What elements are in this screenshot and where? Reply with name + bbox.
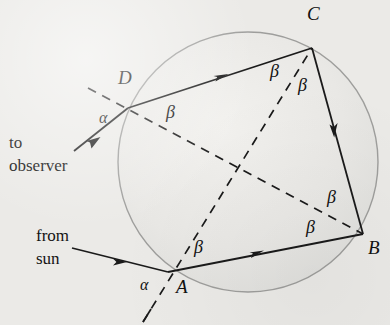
caption-from-sun-line-2: sun — [36, 250, 69, 267]
angle-label-beta-at-b-lower: β — [306, 218, 315, 236]
caption-to-observer-line-2: observer — [9, 157, 68, 174]
vertex-label-b: B — [368, 238, 380, 257]
angle-label-alpha-at-a: α — [140, 277, 148, 293]
caption-to-observer-line-1: to — [9, 134, 68, 151]
normal-tick-below-a — [143, 309, 151, 322]
angle-label-beta-at-b-upper: β — [327, 188, 336, 206]
angle-label-beta-at-c-right: β — [298, 76, 307, 94]
angle-label-beta-at-c-left: β — [270, 62, 279, 80]
figure-canvas: A B C D α α β β β β β β to observer from… — [0, 0, 390, 325]
caption-from-sun: from sun — [36, 227, 69, 267]
vertex-label-a: A — [176, 277, 188, 296]
angle-label-alpha-at-d: α — [99, 110, 107, 126]
caption-to-observer: to observer — [9, 134, 68, 174]
vertex-label-d: D — [118, 68, 132, 87]
raindrop-circle — [118, 32, 378, 292]
angle-label-beta-at-a: β — [194, 238, 203, 256]
vertex-label-c: C — [307, 4, 320, 23]
angle-label-beta-at-d: β — [166, 103, 175, 121]
caption-from-sun-line-1: from — [36, 227, 69, 244]
